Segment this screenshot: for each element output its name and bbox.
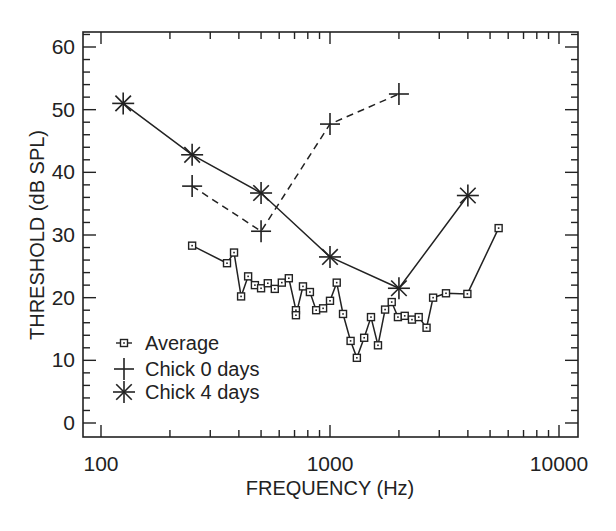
square-icon [415, 314, 422, 321]
x-tick-label: 100 [83, 452, 118, 475]
series-chick-0-days [182, 83, 409, 242]
asterisk-icon [112, 92, 134, 114]
asterisk-icon [113, 381, 135, 403]
x-tick-label: 10000 [530, 452, 588, 475]
y-tick-label: 40 [52, 160, 75, 183]
legend-item: Chick 4 days [113, 381, 260, 403]
y-tick-label: 30 [52, 223, 75, 246]
square-icon [495, 225, 502, 232]
asterisk-icon [319, 246, 341, 268]
plus-icon [114, 358, 134, 380]
legend: AverageChick 0 daysChick 4 days [113, 332, 260, 403]
asterisk-icon [181, 144, 203, 166]
series-line [123, 103, 468, 288]
square-icon [361, 334, 368, 341]
tick-labels: 0102030405060100100010000 [52, 35, 589, 475]
plus-icon [389, 83, 409, 105]
square-icon [231, 249, 238, 256]
y-tick-label: 0 [63, 411, 75, 434]
y-tick-label: 50 [52, 98, 75, 121]
y-tick-label: 20 [52, 286, 75, 309]
series-chick-4-days [112, 92, 479, 299]
legend-item: Chick 0 days [114, 358, 260, 380]
asterisk-icon [250, 182, 272, 204]
square-icon [238, 293, 245, 300]
square-icon [121, 340, 128, 347]
square-icon [245, 273, 252, 280]
square-icon [394, 314, 401, 321]
square-icon [333, 279, 340, 286]
square-icon [388, 299, 395, 306]
square-icon [408, 316, 415, 323]
square-icon [189, 242, 196, 249]
square-icon [285, 275, 292, 282]
square-icon [299, 283, 306, 290]
legend-item: Average [116, 332, 219, 354]
square-icon [401, 312, 408, 319]
square-icon [320, 305, 327, 312]
square-icon [271, 285, 278, 292]
x-tick-label: 1000 [307, 452, 354, 475]
asterisk-icon [457, 185, 479, 207]
x-axis-label: FREQUENCY (Hz) [246, 477, 415, 499]
square-icon [306, 289, 313, 296]
square-icon [423, 324, 430, 331]
y-tick-label: 10 [52, 348, 75, 371]
square-icon [347, 337, 354, 344]
square-icon [464, 290, 471, 297]
series-line [192, 94, 399, 231]
plus-icon [182, 175, 202, 197]
square-icon [442, 290, 449, 297]
y-axis-label: THRESHOLD (dB SPL) [26, 130, 48, 340]
plus-icon [320, 113, 340, 135]
square-icon [382, 306, 389, 313]
legend-label: Average [145, 332, 219, 354]
plus-icon [251, 220, 271, 242]
square-icon [264, 280, 271, 287]
square-icon [258, 285, 265, 292]
square-icon [292, 312, 299, 319]
square-icon [224, 260, 231, 267]
y-tick-label: 60 [52, 35, 75, 58]
square-icon [374, 342, 381, 349]
square-icon [340, 310, 347, 317]
square-icon [367, 314, 374, 321]
square-icon [313, 307, 320, 314]
legend-label: Chick 4 days [145, 381, 260, 403]
square-icon [353, 354, 360, 361]
square-icon [430, 294, 437, 301]
series-average [189, 225, 503, 362]
legend-label: Chick 0 days [145, 358, 260, 380]
series-layer [112, 83, 502, 361]
square-icon [327, 297, 334, 304]
square-icon [278, 279, 285, 286]
asterisk-icon [388, 277, 410, 299]
chart: 0102030405060100100010000 AverageChick 0… [0, 0, 616, 531]
